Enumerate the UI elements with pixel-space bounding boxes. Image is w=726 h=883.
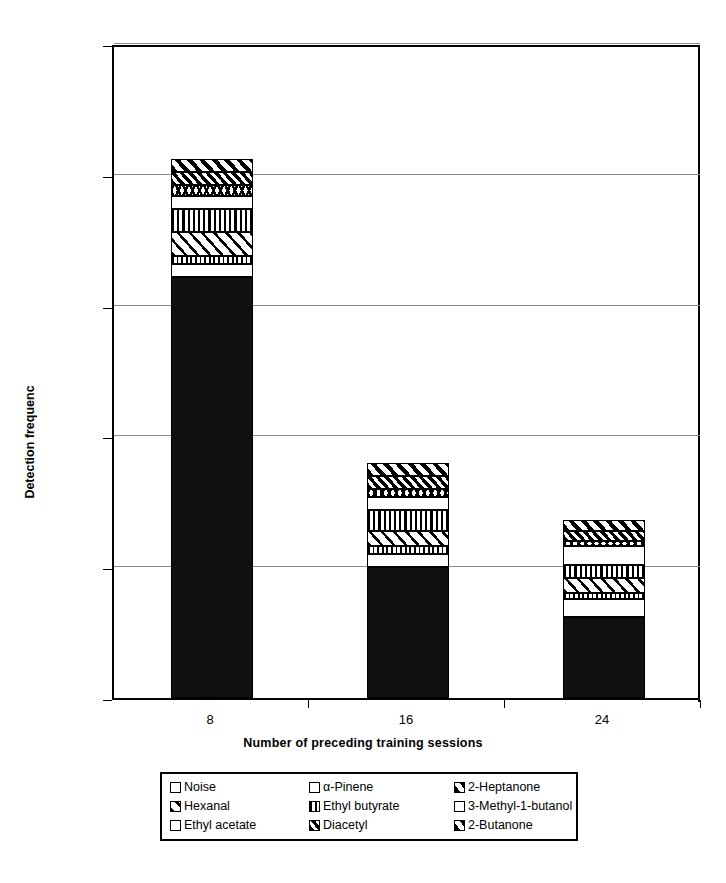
legend-item[interactable]: 3-Methyl-1-butanol — [454, 799, 572, 813]
bar-segment[interactable] — [563, 593, 645, 598]
x-axis-tick-label: 8 — [206, 712, 213, 727]
legend-swatch-icon — [170, 782, 181, 793]
legend-swatch-icon — [170, 820, 181, 831]
legend-grid: Noiseα-Pinene2-HeptanoneHexanalEthyl but… — [170, 780, 568, 832]
bar-segment[interactable] — [367, 497, 449, 510]
bar-segment[interactable] — [563, 617, 645, 698]
bar-segment[interactable] — [171, 277, 253, 698]
legend-swatch-icon — [454, 801, 465, 812]
bar-segment[interactable] — [171, 172, 253, 185]
bar-segment[interactable] — [367, 476, 449, 489]
y-axis-title: Detection frequenc — [23, 385, 37, 498]
legend-label: 2-Heptanone — [468, 780, 540, 794]
bar-segment[interactable] — [367, 554, 449, 567]
y-axis-tick-mark — [103, 46, 112, 47]
legend-swatch-icon — [170, 801, 181, 812]
bar-segment[interactable] — [367, 531, 449, 547]
chart-legend: Noiseα-Pinene2-HeptanoneHexanalEthyl but… — [160, 772, 578, 841]
bar-segment[interactable] — [171, 159, 253, 172]
y-axis-tick-mark — [103, 700, 112, 701]
bar-segment[interactable] — [563, 565, 645, 578]
chart-figure: Detection frequenc 050100150200250 81624… — [0, 0, 726, 883]
bar-segment[interactable] — [367, 489, 449, 497]
legend-item[interactable]: Noise — [170, 780, 309, 794]
y-axis-tick-mark — [103, 177, 112, 178]
bar-segment[interactable] — [367, 510, 449, 531]
legend-item[interactable]: α-Pinene — [309, 780, 454, 794]
legend-label: Hexanal — [184, 799, 230, 813]
bar-segment[interactable] — [563, 578, 645, 594]
legend-swatch-icon — [309, 782, 320, 793]
legend-label: Ethyl acetate — [184, 818, 256, 832]
legend-item[interactable]: Ethyl acetate — [170, 818, 309, 832]
legend-label: Diacetyl — [323, 818, 367, 832]
legend-item[interactable]: Ethyl butyrate — [309, 799, 454, 813]
bar-segment[interactable] — [563, 546, 645, 564]
bar-segment[interactable] — [563, 599, 645, 617]
x-axis-tick-label: 16 — [399, 712, 413, 727]
legend-label: 3-Methyl-1-butanol — [468, 799, 572, 813]
bar-stack[interactable] — [367, 44, 449, 698]
legend-swatch-icon — [454, 782, 465, 793]
bar-segment[interactable] — [563, 520, 645, 530]
legend-item[interactable]: Hexanal — [170, 799, 309, 813]
legend-item[interactable]: 2-Heptanone — [454, 780, 572, 794]
y-axis-tick-mark — [103, 569, 112, 570]
bar-segment[interactable] — [171, 185, 253, 195]
x-axis-tick-mark — [700, 700, 701, 708]
bar-segment[interactable] — [367, 546, 449, 554]
bar-segment[interactable] — [367, 567, 449, 698]
legend-swatch-icon — [454, 820, 465, 831]
legend-swatch-icon — [309, 820, 320, 831]
bar-segment[interactable] — [171, 232, 253, 256]
bar-segment[interactable] — [171, 264, 253, 277]
bar-stack[interactable] — [563, 44, 645, 698]
y-axis-tick-mark — [103, 438, 112, 439]
y-axis-tick-mark — [103, 308, 112, 309]
bar-segment[interactable] — [171, 196, 253, 209]
bar-segment[interactable] — [367, 463, 449, 476]
bar-segment[interactable] — [171, 256, 253, 264]
legend-item[interactable]: Diacetyl — [309, 818, 454, 832]
legend-label: 2-Butanone — [468, 818, 533, 832]
bar-stack[interactable] — [171, 44, 253, 698]
x-axis-tick-mark — [308, 700, 309, 708]
x-axis-tick-label: 24 — [595, 712, 609, 727]
bar-segment[interactable] — [563, 531, 645, 541]
bar-segment[interactable] — [563, 541, 645, 546]
legend-item[interactable]: 2-Butanone — [454, 818, 572, 832]
bar-segment[interactable] — [171, 209, 253, 233]
legend-label: Noise — [184, 780, 216, 794]
legend-label: α-Pinene — [323, 780, 373, 794]
legend-label: Ethyl butyrate — [323, 799, 399, 813]
plot-area — [112, 46, 700, 700]
legend-swatch-icon — [309, 801, 320, 812]
x-axis-tick-mark — [504, 700, 505, 708]
x-axis-title: Number of preceding training sessions — [0, 736, 726, 750]
